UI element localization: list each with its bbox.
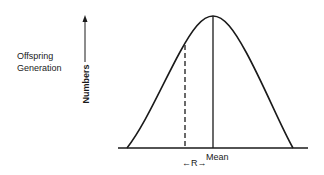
mean-label: Mean xyxy=(206,151,229,163)
normal-distribution-curve xyxy=(127,16,293,148)
distribution-plot xyxy=(0,0,324,175)
response-label: ←R→ xyxy=(182,157,207,169)
y-axis-label: Numbers xyxy=(80,62,92,106)
arrow-left-icon: ← xyxy=(182,158,191,168)
arrow-right-icon: → xyxy=(198,158,207,168)
y-axis-arrow-icon xyxy=(83,15,88,62)
